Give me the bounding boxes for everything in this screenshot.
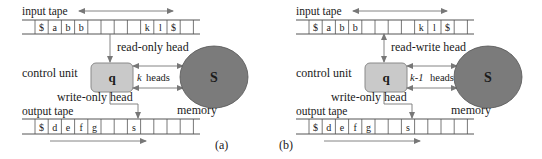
tape-cell-symbol: f <box>80 122 84 133</box>
tape-cell-symbol: d <box>326 122 331 133</box>
tape-cell: f <box>354 122 358 133</box>
tape-cell: $ <box>313 122 318 133</box>
tape-cell: a <box>327 22 332 33</box>
tape-cell: $ <box>39 122 44 133</box>
tape-cell: k <box>419 22 424 33</box>
heads-count-label: k <box>137 72 142 83</box>
tape-cell: $ <box>39 22 44 33</box>
tape-cell-symbol: l <box>433 22 436 33</box>
output-head-label: write-only head <box>331 90 407 104</box>
tape-cell: d <box>52 122 57 133</box>
state-label: q <box>108 70 116 85</box>
tape-cell: g <box>366 122 371 133</box>
tape-cell: b <box>66 22 71 33</box>
tape-cell: $ <box>313 22 318 33</box>
input-tape: $abbkl$ <box>22 20 200 34</box>
panel-b: input tape$abbkl$read-write headcontrol … <box>296 5 522 141</box>
memory-symbol: S <box>484 70 492 85</box>
tape-cell: l <box>433 22 436 33</box>
output-tape: $defgs <box>22 119 200 134</box>
tape-cell: d <box>326 122 331 133</box>
tape-cell-symbol: $ <box>39 22 44 33</box>
control-unit-label: control unit <box>296 66 352 80</box>
tape-cell-symbol: a <box>327 22 332 33</box>
tape-cell: b <box>353 22 358 33</box>
tape-cell-symbol: b <box>340 22 345 33</box>
output-tape: $defgs <box>296 119 474 134</box>
input-tape: $abbkl$ <box>296 20 474 34</box>
tape-cell: l <box>159 22 162 33</box>
tape-cell-symbol: e <box>340 122 345 133</box>
caption-a: (a) <box>215 138 228 152</box>
tape-cell-symbol: b <box>66 22 71 33</box>
tape-cell-symbol: f <box>354 122 358 133</box>
tape-cell-symbol: $ <box>313 122 318 133</box>
tape-cell: e <box>340 122 345 133</box>
tape-cell: b <box>79 22 84 33</box>
tape-cell-symbol: $ <box>445 22 450 33</box>
tape-cell: g <box>92 122 97 133</box>
tape-cell-symbol: d <box>52 122 57 133</box>
tape-cell-symbol: k <box>145 22 150 33</box>
tape-cell: $ <box>171 22 176 33</box>
input-head-label: read-write head <box>391 40 466 54</box>
tape-cell: s <box>406 122 410 133</box>
turing-machine-diagram: input tape$abbkl$read-only headcontrol u… <box>0 0 542 159</box>
tape-cell-symbol: e <box>66 122 71 133</box>
tape-cell: b <box>340 22 345 33</box>
output-tape-label: output tape <box>22 105 73 118</box>
heads-label: heads <box>430 72 454 83</box>
tape-cell: e <box>66 122 71 133</box>
input-tape-label: input tape <box>296 5 342 18</box>
tape-cell: f <box>80 122 84 133</box>
input-head-label: read-only head <box>117 40 189 54</box>
memory-label: memory <box>451 103 491 117</box>
tape-cell: s <box>132 122 136 133</box>
output-head-label: write-only head <box>57 90 133 104</box>
panel-a: input tape$abbkl$read-only headcontrol u… <box>22 5 248 141</box>
tape-cell-symbol: s <box>132 122 136 133</box>
tape-cell-symbol: $ <box>39 122 44 133</box>
control-unit-label: control unit <box>22 66 78 80</box>
memory-store: S <box>454 46 522 108</box>
heads-label: heads <box>146 72 170 83</box>
tape-cell-symbol: $ <box>171 22 176 33</box>
memory-label: memory <box>177 103 217 117</box>
tape-cell-symbol: k <box>419 22 424 33</box>
memory-store: S <box>180 46 248 108</box>
tape-cell: $ <box>445 22 450 33</box>
heads-count-label: k-1 <box>410 72 423 83</box>
caption-b: (b) <box>279 138 293 152</box>
state-label: q <box>382 70 390 85</box>
tape-cell-symbol: a <box>53 22 58 33</box>
tape-cell-symbol: g <box>92 122 97 133</box>
state-box: q <box>91 63 133 92</box>
tape-cell: k <box>145 22 150 33</box>
input-tape-label: input tape <box>22 5 68 18</box>
tape-cell-symbol: $ <box>313 22 318 33</box>
tape-cell-symbol: g <box>366 122 371 133</box>
tape-cell: a <box>53 22 58 33</box>
state-box: q <box>365 63 407 92</box>
output-tape-label: output tape <box>296 105 347 118</box>
tape-cell-symbol: s <box>406 122 410 133</box>
diagram-svg: input tape$abbkl$read-only headcontrol u… <box>0 0 542 159</box>
tape-cell-symbol: l <box>159 22 162 33</box>
tape-cell-symbol: b <box>79 22 84 33</box>
memory-symbol: S <box>210 70 218 85</box>
tape-cell-symbol: b <box>353 22 358 33</box>
